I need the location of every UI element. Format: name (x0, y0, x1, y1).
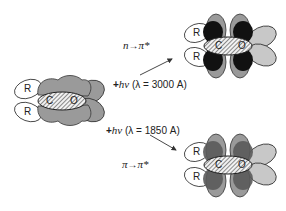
pi-r-bottom: R (193, 172, 200, 182)
pi-atom-o: O (238, 160, 246, 170)
carbonyl-excitation-diagram (0, 0, 286, 211)
ground-atom-o: O (70, 96, 78, 106)
ground-atom-c: C (46, 96, 53, 106)
pi-atom-c: C (215, 160, 222, 170)
arrow-pi-pi-star (150, 135, 176, 150)
n-atom-o: O (238, 41, 246, 51)
energy-3000-label: +hν (λ = 3000 A) (113, 79, 187, 90)
pi-r-top: R (193, 147, 200, 157)
n-atom-c: C (215, 41, 222, 51)
ground-r-top: R (24, 84, 31, 94)
pi-pi-star-molecule (182, 134, 280, 197)
n-r-top: R (193, 28, 200, 38)
pi-pi-star-label: π→π* (122, 159, 149, 170)
arrow-n-pi-star (140, 59, 172, 75)
n-pi-star-label: n→π* (123, 40, 150, 51)
n-r-bottom: R (193, 52, 200, 62)
ground-r-bottom: R (24, 107, 31, 117)
n-pi-star-molecule (182, 14, 280, 78)
energy-1850-label: +hν (λ = 1850 A) (106, 125, 180, 136)
